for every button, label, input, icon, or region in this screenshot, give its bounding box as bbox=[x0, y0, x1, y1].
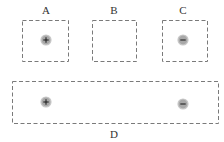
negative-charge-icon bbox=[178, 99, 188, 109]
region-b: B bbox=[93, 4, 137, 62]
positive-charge-icon bbox=[41, 35, 51, 45]
region-c: C bbox=[163, 4, 208, 62]
positive-charge-icon bbox=[41, 97, 51, 107]
region-d: D bbox=[13, 82, 219, 141]
region-c-label: C bbox=[179, 4, 186, 16]
region-a: A bbox=[23, 4, 69, 62]
negative-charge-icon bbox=[178, 35, 188, 45]
charge-diagram: A B C D bbox=[0, 0, 224, 142]
region-a-label: A bbox=[42, 4, 50, 16]
region-b-box bbox=[93, 21, 137, 62]
region-b-label: B bbox=[110, 4, 117, 16]
region-d-label: D bbox=[110, 128, 118, 140]
